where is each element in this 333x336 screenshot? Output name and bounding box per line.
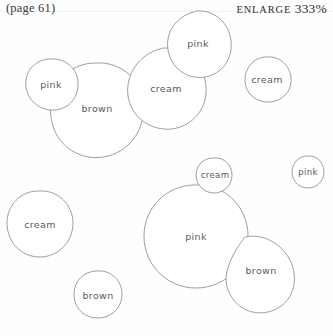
blob-outline-lower-cream-left <box>7 191 73 257</box>
blob-outline-upper-pink-right <box>168 11 232 78</box>
page-canvas: (page 61) ENLARGE 333% pinkbrowncream <box>0 0 333 336</box>
blob-outline-lower-pink-right <box>292 156 324 188</box>
blob-outline-lower-cream-top <box>196 158 232 193</box>
blob-outline-lower-brown-left <box>74 271 122 318</box>
blob-outline-upper-cream-right <box>245 57 291 102</box>
blob-outline-upper-pink-left <box>26 59 78 110</box>
blob-diagram <box>0 0 333 336</box>
